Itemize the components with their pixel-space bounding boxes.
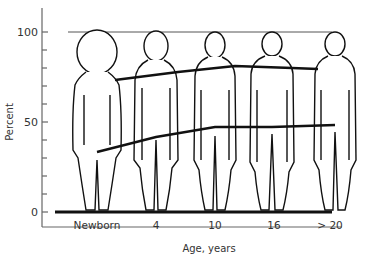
x-label-newborn: Newborn (74, 219, 121, 231)
x-label-adult: > 20 (317, 219, 343, 231)
y-tick-100: 100 (17, 26, 38, 39)
y-tick-50: 50 (24, 116, 38, 129)
x-label-4: 4 (153, 219, 160, 231)
figure-newborn (73, 30, 122, 210)
figure-16yr (250, 32, 294, 210)
figure-adult (314, 32, 356, 210)
y-axis-label: Percent (4, 103, 15, 141)
figures (73, 30, 356, 210)
x-label-10: 10 (208, 219, 221, 231)
x-label-16: 16 (267, 219, 281, 231)
figure-10yr (194, 32, 236, 210)
x-axis-label: Age, years (182, 243, 235, 254)
y-tick-0: 0 (31, 206, 38, 219)
body-proportion-chart: 100 50 0 Percent (0, 0, 387, 260)
figure-4yr (134, 31, 178, 210)
